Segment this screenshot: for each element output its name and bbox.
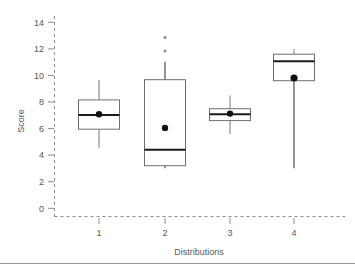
x-axis-title: Distributions [174, 247, 224, 257]
boxplot-svg: 14 12 10 8 6 4 2 0 Score [0, 0, 355, 271]
mean-dot-2 [162, 125, 168, 131]
x-tick-label-4: 4 [291, 228, 296, 238]
x-tick-label-1: 1 [96, 228, 101, 238]
x-tick-label-3: 3 [227, 228, 232, 238]
boxplot-figure: 14 12 10 8 6 4 2 0 Score [0, 0, 355, 271]
x-tick-label-2: 2 [162, 228, 167, 238]
mean-dot-4 [290, 74, 297, 81]
y-tick-label-10: 10 [34, 71, 44, 81]
y-tick-label-6: 6 [39, 124, 44, 134]
y-tick-label-8: 8 [39, 97, 44, 107]
y-tick-label-2: 2 [39, 177, 44, 187]
y-tick-label-4: 4 [39, 150, 44, 160]
outlier-dot-2-a [164, 36, 167, 39]
y-tick-label-0: 0 [39, 204, 44, 214]
y-tick-label-12: 12 [34, 44, 44, 54]
y-axis-title: Score [16, 109, 26, 133]
mean-dot-3 [227, 110, 233, 116]
y-tick-label-14: 14 [34, 18, 44, 28]
box-2 [145, 80, 186, 166]
mean-dot-1 [96, 111, 102, 117]
outlier-dot-2-b [164, 50, 167, 53]
